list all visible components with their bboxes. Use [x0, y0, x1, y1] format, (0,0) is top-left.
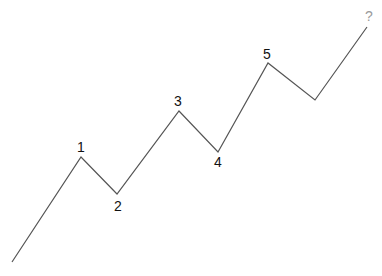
wave-label-4: 4	[214, 154, 222, 170]
wave-path	[12, 27, 367, 262]
wave-label-1: 1	[77, 139, 85, 155]
wave-label-3: 3	[174, 93, 182, 109]
wave-label-5: 5	[263, 46, 271, 62]
wave-label-2: 2	[114, 198, 122, 214]
wave-label-next-unknown: ?	[365, 8, 373, 24]
wave-diagram: 1 2 3 4 5 ?	[0, 0, 382, 276]
